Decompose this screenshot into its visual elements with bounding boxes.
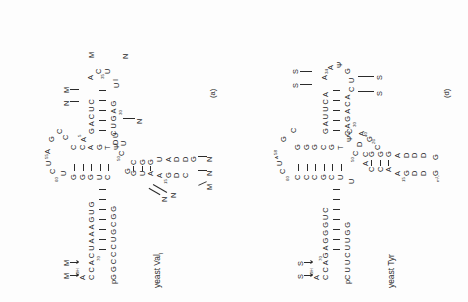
panel-a-title-sub: I: [158, 253, 164, 255]
t-joint-U2: U: [120, 141, 127, 146]
panel-d-label: (d): [442, 89, 451, 98]
d-callout-N3: N: [161, 197, 168, 202]
acceptor-3prime-A: A: [79, 275, 86, 280]
tyr-d-stem-C-top: C: [362, 152, 369, 157]
ac-callout-N2: N: [136, 119, 143, 124]
tyr-t-stem-psi: Ψ: [346, 136, 353, 142]
tyr-ac-loop-A1: A: [321, 75, 328, 80]
ac-loop-num-35: 35: [101, 74, 105, 79]
tyr-d-loop-G2: G: [432, 154, 439, 160]
d-callout-N4: N: [170, 193, 177, 198]
tyr-t-joint-num-50: 50: [351, 157, 355, 162]
panel-yeast-tyr: yeast Tyr (d) A OH C C A G A G G G U C 7…: [234, 0, 468, 302]
t-joint-C: C: [118, 151, 125, 156]
panel-a-title: yeast ValI: [152, 253, 164, 288]
d-stem-C1: C: [130, 160, 137, 165]
tyr-acceptor-number-70: 70: [319, 256, 323, 261]
tyr-ac-A1: A: [358, 131, 365, 136]
ac-loop-I: I: [112, 79, 119, 81]
tyr-acceptor-top-strand: C C A G A G G G U C: [322, 207, 329, 280]
tyr-t-joint-D: D: [356, 142, 363, 147]
d-callout-N2: N: [206, 157, 213, 162]
tyr-ac-C-join: C: [374, 145, 381, 150]
t-stem-lower: CCAGT: [70, 144, 113, 150]
tyr-ac-callout-S4: S: [376, 75, 383, 80]
panel-a-title-text: yeast Val: [152, 254, 162, 288]
ac-stem-bottom: C U G A G: [110, 101, 117, 136]
tyr-ac-loop-G1: G: [344, 68, 351, 74]
t-loop-num-60: 60: [55, 177, 59, 182]
d-loop-left: AGDC: [156, 172, 190, 178]
t-joint-num-50: 50: [117, 156, 121, 161]
panel-a-label: (a): [208, 89, 217, 98]
tyr-d-stem-A: A: [362, 161, 369, 166]
figure-canvas: yeast ValI (a) A OH C C A C U A A A G U …: [0, 0, 468, 302]
tyr-ac-callout-S2: S: [292, 69, 299, 74]
ac-loop-A1: A: [87, 75, 94, 80]
tyr-ac-stem-bottom: C A G A C A: [344, 95, 351, 136]
tyr-d-loop-left: AGDD: [394, 170, 428, 176]
d-stem-G2: G: [147, 159, 154, 165]
ac-callout-M2: M: [88, 52, 95, 58]
ac-callout-N3: N: [122, 54, 129, 59]
t-loop-a1: A: [44, 149, 51, 154]
tyr-d-loop-num-15: 15: [402, 177, 406, 182]
tyr-acceptor-bottom-strand: pC U U C U U G G: [344, 222, 351, 284]
t-stem-upper: GGGUC: [70, 174, 113, 180]
panel-d-title: yeast Tyr: [386, 254, 396, 288]
t-loop-u2: U: [60, 171, 67, 176]
t-stem-C-end: C: [62, 135, 69, 140]
panel-yeast-val: yeast ValI (a) A OH C C A C U A A A G U …: [0, 0, 234, 302]
tyr-t-loop-c2: C: [290, 128, 297, 133]
d-stem-upper-strand: GUA: [130, 170, 156, 176]
d-callout-N1: N: [206, 171, 213, 176]
tyr-ac-loop-U1: U: [348, 78, 355, 83]
t-loop-g1: G: [48, 136, 55, 142]
tyr-t-joint-C: C: [352, 151, 359, 156]
tyr-t-loop-num-A: A: [275, 156, 279, 159]
ac-num-5: 5: [78, 135, 82, 137]
tyr-t-loop-num-58: 58: [274, 150, 278, 155]
d-callout-M: M: [206, 184, 213, 190]
tyr-ac-G1: G: [366, 136, 373, 142]
tyr-t-loop-c1: C: [279, 169, 286, 174]
tyr-ac-callout-S1: S: [292, 83, 299, 88]
t-loop-c1: C: [49, 169, 56, 174]
tyr-d-loop-right: ADDD: [394, 153, 428, 158]
tyr-ac-loop-A2: A: [327, 65, 334, 70]
ac-stem-top: G A C U C: [88, 99, 95, 134]
d-loop-right: UADDG: [156, 156, 199, 162]
ac-stem-num-30: 30: [119, 110, 123, 115]
tyr-d-stem-lower-strand: GGG: [368, 151, 394, 157]
acceptor-number-70: 70: [97, 256, 101, 261]
tyr-t-loop-g1: G: [280, 136, 287, 142]
tyr-ac-callout-S3: S: [376, 91, 383, 96]
acceptor-top-strand: C C A C U A A A G U G: [88, 202, 95, 280]
t-loop-u1: U: [45, 161, 52, 166]
panel-d-title-text: yeast Tyr: [386, 254, 396, 288]
tyr-d-loop-m2G: m²₂: [436, 175, 440, 182]
tyr-ac-stem-top: G A U U C A: [322, 92, 329, 134]
tyr-t-stem-lower: GGGCGT: [294, 144, 346, 150]
tyr-acceptor-U-join: U: [348, 179, 355, 184]
t-loop-c2: C: [56, 129, 63, 134]
tyr-t-stem-upper: CCCGCU: [294, 174, 346, 180]
acceptor-bottom-strand: pG G C C C U G C G G: [110, 206, 117, 284]
d-loop-num-15: 15: [164, 179, 168, 184]
ac-loop-U2: U: [113, 83, 120, 88]
panel-a-stage: yeast ValI (a) A OH C C A C U A A A G U …: [0, 0, 234, 302]
ac-A5: A: [80, 137, 87, 142]
tyr-t-loop-u1: U: [276, 161, 283, 166]
tyr-ac-loop-C1: C: [348, 87, 355, 92]
tyr-t-loop-num-60: 60: [286, 176, 290, 181]
tyr-d-stem-upper-strand: CCA: [368, 167, 394, 172]
tyr-ac-stem-num-30: 30: [353, 122, 357, 127]
panel-d-stage: yeast Tyr (d) A OH C C A G A G G G U C 7…: [234, 0, 468, 302]
tyr-acceptor-3prime-A: A: [313, 275, 320, 280]
t-loop-num-55: 55: [45, 154, 49, 159]
